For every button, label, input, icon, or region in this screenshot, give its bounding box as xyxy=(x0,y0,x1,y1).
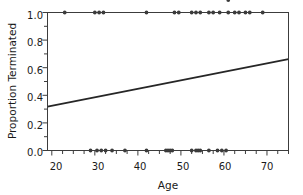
y-tick-label: 0.0 xyxy=(27,147,43,158)
y-tick-label: 0.4 xyxy=(27,92,43,103)
y-tick-label: 0.2 xyxy=(27,120,43,131)
x-tick-label: 30 xyxy=(92,161,105,172)
x-tick-label: 70 xyxy=(261,161,274,172)
scatter-plot-figure: Proportion Terminated Age 1.0 0.8 0.6 0.… xyxy=(0,0,303,195)
x-tick-label: 50 xyxy=(177,161,190,172)
x-axis-title: Age xyxy=(158,179,178,191)
y-axis-title: Proportion Terminated xyxy=(6,23,18,139)
chart-background xyxy=(0,0,303,195)
y-tick-label: 0.6 xyxy=(27,65,43,76)
x-tick-label: 40 xyxy=(134,161,147,172)
chart-canvas: Proportion Terminated Age 1.0 0.8 0.6 0.… xyxy=(0,0,303,195)
x-tick-label: 60 xyxy=(219,161,232,172)
y-tick-label: 1.0 xyxy=(27,10,43,21)
y-tick-label: 0.8 xyxy=(27,37,43,48)
x-tick-label: 20 xyxy=(50,161,63,172)
